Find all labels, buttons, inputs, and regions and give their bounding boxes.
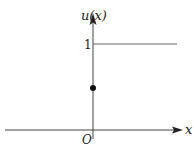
origin-label: O bbox=[82, 133, 92, 147]
x-axis-label: x bbox=[185, 122, 193, 137]
y-axis-label: u(x) bbox=[81, 8, 107, 23]
step-function-plot: u(x) 1 x O bbox=[0, 0, 194, 149]
value-at-zero-dot bbox=[90, 85, 96, 91]
y-tick-label-1: 1 bbox=[84, 38, 92, 52]
